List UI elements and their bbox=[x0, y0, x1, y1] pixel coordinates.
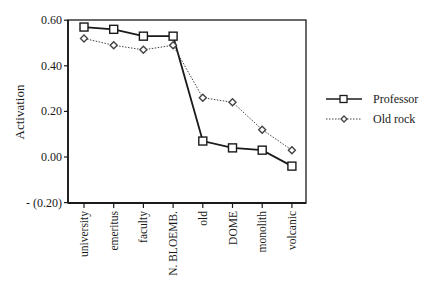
y-tick-label: 0.00 bbox=[41, 150, 62, 164]
diamond-marker bbox=[288, 147, 295, 154]
x-tick-label: volcanic bbox=[286, 211, 298, 250]
y-axis-label: Activation bbox=[12, 84, 27, 139]
y-tick-label: - (0.20) bbox=[26, 196, 62, 210]
legend-label: Professor bbox=[373, 92, 418, 106]
x-tick-label: monolith bbox=[256, 211, 268, 253]
legend-label: Old rock bbox=[373, 112, 415, 126]
legend-square-icon bbox=[340, 96, 347, 103]
y-tick-label: 0.60 bbox=[41, 13, 62, 27]
square-marker bbox=[199, 137, 207, 145]
square-marker bbox=[80, 23, 88, 31]
plot-frame bbox=[68, 20, 306, 203]
y-axis: 0.600.400.200.00- (0.20) bbox=[26, 13, 68, 209]
activation-line-chart: 0.600.400.200.00- (0.20) universityemeri… bbox=[0, 0, 433, 288]
diamond-marker bbox=[110, 42, 117, 49]
diamond-marker bbox=[259, 126, 266, 133]
x-tick-label: N. BLOEMB. bbox=[167, 211, 179, 276]
x-tick-label: old bbox=[197, 211, 209, 226]
plot-border bbox=[68, 20, 306, 203]
y-tick-label: 0.20 bbox=[41, 104, 62, 118]
x-tick-label: faculty bbox=[137, 211, 150, 243]
diamond-marker bbox=[199, 94, 206, 101]
square-marker bbox=[139, 32, 147, 40]
legend-diamond-icon bbox=[341, 116, 347, 122]
series-line-old-rock bbox=[84, 38, 292, 150]
diamond-marker bbox=[81, 35, 88, 42]
square-marker bbox=[288, 162, 296, 170]
x-tick-label: university bbox=[78, 211, 91, 257]
x-axis: universityemeritusfacultyN. BLOEMB.oldDO… bbox=[78, 203, 298, 276]
legend: ProfessorOld rock bbox=[326, 92, 418, 126]
y-tick-label: 0.40 bbox=[41, 59, 62, 73]
square-marker bbox=[110, 25, 118, 33]
diamond-marker bbox=[140, 46, 147, 53]
series-lines bbox=[80, 23, 296, 170]
x-tick-label: DOME bbox=[227, 211, 239, 245]
square-marker bbox=[229, 144, 237, 152]
square-marker bbox=[169, 32, 177, 40]
square-marker bbox=[258, 146, 266, 154]
x-tick-label: emeritus bbox=[108, 210, 120, 250]
